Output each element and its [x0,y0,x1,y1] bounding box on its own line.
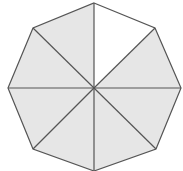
octagon-diagram [0,0,183,171]
